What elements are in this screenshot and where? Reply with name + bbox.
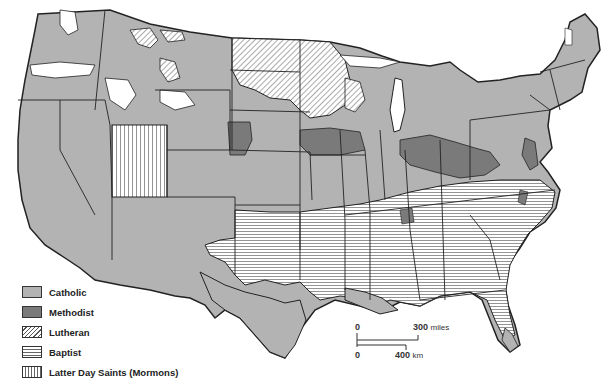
legend-label: Catholic [49, 287, 86, 298]
legend-label: Lutheran [49, 327, 90, 338]
legend-item-lutheran: Lutheran [22, 322, 178, 342]
baptist-swatch-icon [22, 346, 42, 358]
legend-item-catholic: Catholic [22, 282, 178, 302]
catholic-swatch-icon [22, 286, 42, 298]
scale-bar: 0 300 miles 0 400 km [350, 322, 470, 362]
legend-label: Methodist [49, 307, 94, 318]
region-methodist-iowa-illinois [300, 128, 365, 155]
legend-label: Latter Day Saints (Mormons) [49, 367, 178, 378]
legend-item-methodist: Methodist [22, 302, 178, 322]
methodist-swatch-icon [22, 306, 42, 318]
region-methodist-tennessee [400, 208, 414, 224]
legend-item-baptist: Baptist [22, 342, 178, 362]
region-other-oregon [30, 62, 95, 78]
lutheran-swatch-icon [22, 326, 42, 338]
scale-km-end: 400 km [395, 350, 423, 360]
legend-item-mormon: Latter Day Saints (Mormons) [22, 362, 178, 382]
mormon-swatch-icon [22, 366, 42, 378]
scale-km-start: 0 [355, 350, 360, 360]
region-other-maine [565, 28, 572, 45]
scale-bar-lines [350, 330, 470, 350]
region-mormon-utah [112, 125, 167, 197]
legend-label: Baptist [49, 347, 81, 358]
map-legend: Catholic Methodist Lutheran Baptist Latt… [22, 282, 178, 382]
